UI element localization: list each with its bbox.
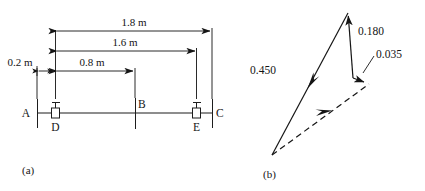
vector-0-035-line [353, 78, 364, 82]
vector-0-035-label: 0.035 [376, 48, 402, 60]
dimension-1-8m: 1.8 m [57, 16, 210, 31]
figure-canvas: 1.8 m 1.6 m 0.8 m 0.2 m A B C D [0, 0, 425, 191]
dimension-0-8m-label: 0.8 m [79, 56, 105, 68]
vector-0-035-leader [363, 56, 374, 73]
panel-caption-a: (a) [22, 164, 35, 177]
beam-diagram: 1.8 m 1.6 m 0.8 m 0.2 m A B C D [7, 16, 224, 133]
vector-0-450-arrowhead [308, 73, 320, 89]
resultant-dashed-line [272, 84, 369, 155]
support-d [52, 102, 60, 118]
vector-diagram: 0.450 0.180 0.035 [250, 13, 402, 155]
dimension-1-6m: 1.6 m [57, 36, 195, 51]
node-label-b: B [138, 98, 146, 110]
dimension-1-6m-label: 1.6 m [112, 36, 138, 48]
figure-root: 1.8 m 1.6 m 0.8 m 0.2 m A B C D [0, 0, 425, 191]
vector-0-180-label: 0.180 [358, 25, 384, 37]
dimension-0-2m: 0.2 m [7, 56, 54, 76]
vector-0-450-label: 0.450 [250, 64, 276, 76]
support-e [193, 102, 201, 118]
vector-0-180-line [348, 16, 353, 78]
panel-caption-b: (b) [263, 168, 276, 181]
dimension-1-8m-label: 1.8 m [121, 16, 147, 28]
dimension-0-2m-label: 0.2 m [7, 56, 33, 68]
dimension-0-8m: 0.8 m [57, 56, 133, 71]
node-label-d: D [51, 121, 59, 133]
node-label-c: C [216, 107, 224, 119]
node-label-a: A [22, 107, 31, 119]
node-label-e: E [193, 121, 200, 133]
